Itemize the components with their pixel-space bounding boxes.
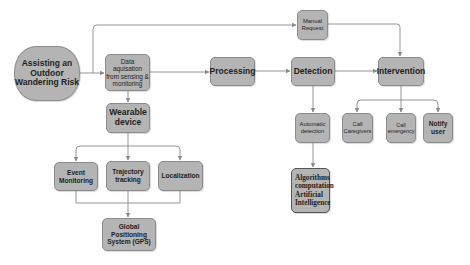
node-label: Algorithms computation Artificial Intell…	[295, 174, 334, 207]
node-manual-request: Manual Request	[297, 10, 328, 40]
node-label: Event Monitoring	[59, 169, 93, 184]
node-label: Notify user	[429, 120, 448, 135]
node-label: Automatic detection	[300, 121, 326, 134]
node-start-assisting-outdoor-wandering-risk: Assisting an Outdoor Wandering Risk	[14, 46, 80, 101]
node-gps: Global Positioning System (GPS)	[102, 218, 156, 251]
node-processing: Processing	[210, 57, 255, 86]
node-label: Localization	[161, 172, 199, 180]
node-call-emergency: Call emergency	[386, 113, 416, 143]
node-wearable-device: Wearable device	[106, 103, 150, 133]
node-label: Manual Request	[302, 18, 324, 31]
node-label: Trajectory tracking	[112, 168, 144, 183]
node-label: Assisting an Outdoor Wandering Risk	[15, 59, 79, 88]
node-label: Call Caregivers	[343, 121, 371, 134]
node-label: Detection	[294, 67, 333, 77]
node-label: Global Positioning System (GPS)	[107, 223, 151, 246]
node-localization: Localization	[158, 161, 203, 191]
node-detection: Detection	[291, 57, 335, 86]
node-label: Data aquisation from sensing & monitorin…	[106, 58, 149, 87]
node-algorithms-ai: Algorithms computation Artificial Intell…	[291, 168, 330, 213]
node-label: Call emergency	[388, 122, 415, 134]
node-intervention: Intervention	[378, 57, 424, 86]
node-label: Wearable device	[109, 108, 147, 128]
node-data-acquisition: Data aquisation from sensing & monitorin…	[105, 54, 150, 91]
node-event-monitoring: Event Monitoring	[54, 162, 98, 191]
flowchart-canvas: Assisting an Outdoor Wandering Risk Data…	[0, 0, 470, 265]
node-label: Processing	[210, 67, 256, 77]
node-notify-user: Notify user	[423, 113, 453, 143]
node-call-caregivers: Call Caregivers	[342, 113, 373, 143]
node-label: Intervention	[377, 67, 426, 77]
node-automatic-detection: Automatic detection	[295, 113, 330, 143]
node-trajectory-tracking: Trajectory tracking	[106, 161, 150, 191]
